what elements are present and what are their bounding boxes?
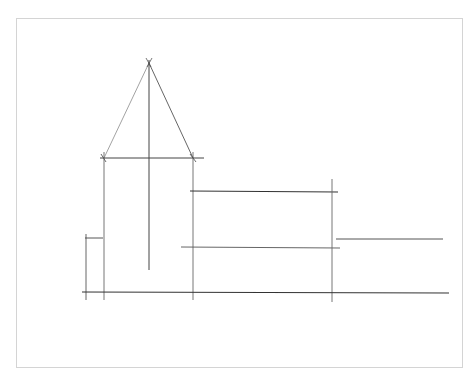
drawing-frame [17, 19, 463, 368]
drawing-canvas [0, 0, 474, 380]
